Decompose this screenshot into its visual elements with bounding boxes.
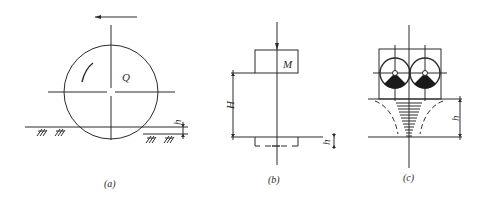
panel-a: Q h (a) (25, 15, 188, 190)
label-h-a: h (171, 119, 183, 125)
label-M: M (282, 58, 293, 70)
figure-canvas: Q h (a) M H (0, 0, 484, 199)
label-h-b: h (320, 139, 332, 145)
label-H: H (224, 100, 236, 110)
caption-b: (b) (268, 174, 280, 186)
label-h-c: h (449, 115, 461, 121)
arrowhead-icon (95, 15, 101, 19)
rotation-arc-icon (82, 63, 93, 82)
drop-arrow-icon (275, 43, 279, 50)
caption-a: (a) (104, 178, 116, 190)
influence-curve-left (375, 101, 398, 134)
caption-c: (c) (403, 172, 415, 184)
panel-c: h (c) (368, 25, 462, 184)
influence-curve-right (420, 101, 443, 134)
label-Q: Q (122, 71, 130, 83)
panel-b: M H h (b) (224, 22, 336, 186)
ground-hatching-icon (37, 129, 174, 143)
depth-dimension-b (332, 133, 336, 149)
